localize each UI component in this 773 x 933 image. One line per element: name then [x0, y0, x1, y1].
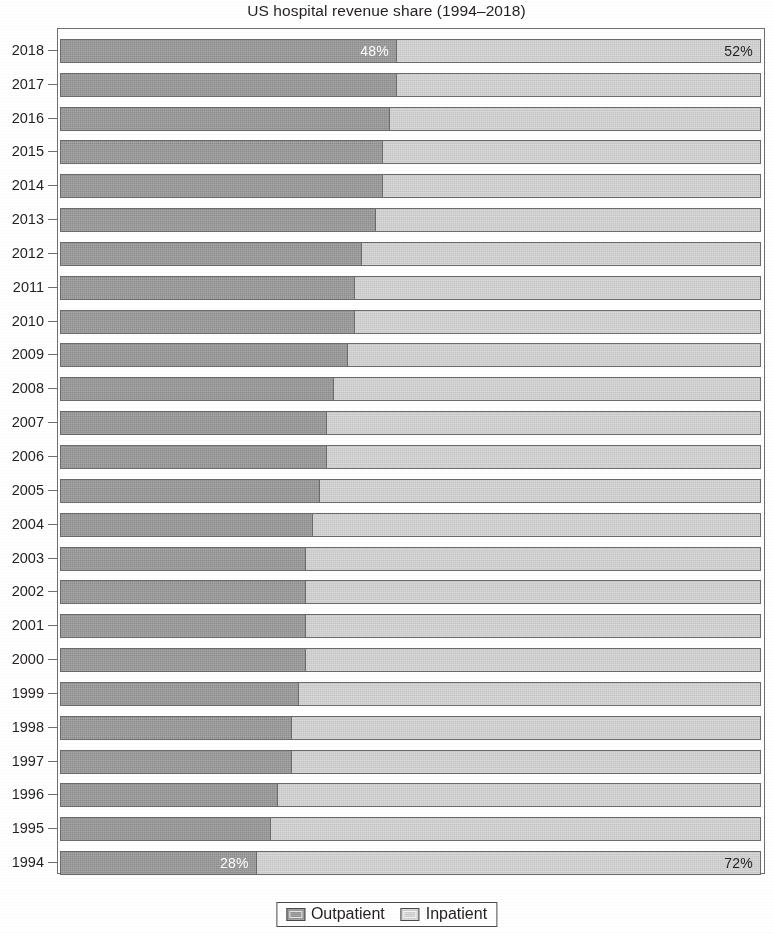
- bar-segment-outpatient: [60, 817, 271, 841]
- legend-label: Outpatient: [311, 906, 385, 922]
- bar-value-label-outpatient: 48%: [360, 44, 396, 58]
- bar-row: [60, 242, 762, 266]
- bar-row: [60, 614, 762, 638]
- y-axis-tick-label-2002: 2002: [12, 584, 44, 599]
- y-axis-tick-label-1997: 1997: [12, 753, 44, 768]
- bar-segment-inpatient: [382, 174, 761, 198]
- bar-segment-inpatient: [326, 445, 761, 469]
- bar-segment-inpatient: [347, 343, 761, 367]
- bar-row: [60, 411, 762, 435]
- bar-row: [60, 73, 762, 97]
- legend-swatch-icon-outpatient: [286, 908, 305, 921]
- y-axis-tick-mark: [48, 118, 57, 119]
- y-axis-tick-mark: [48, 794, 57, 795]
- bar-segment-inpatient: [305, 580, 761, 604]
- bar-segment-outpatient: 28%: [60, 851, 257, 875]
- bar-segment-inpatient: 72%: [256, 851, 761, 875]
- bar-segment-outpatient: [60, 682, 299, 706]
- bar-segment-inpatient: [298, 682, 761, 706]
- bar-segment-outpatient: [60, 140, 383, 164]
- bar-row: 48%52%: [60, 39, 762, 63]
- y-axis-tick-mark: [48, 625, 57, 626]
- bar-row: [60, 580, 762, 604]
- y-axis-tick-label-2011: 2011: [13, 280, 44, 295]
- y-axis-tick-label-2010: 2010: [12, 313, 44, 328]
- y-axis-tick-mark: [48, 219, 57, 220]
- y-axis-tick-label-2013: 2013: [12, 212, 44, 227]
- chart-figure: US hospital revenue share (1994–2018) 20…: [0, 0, 773, 933]
- bar-row: [60, 343, 762, 367]
- bar-segment-outpatient: [60, 783, 278, 807]
- bar-segment-inpatient: 52%: [396, 39, 761, 63]
- y-axis-tick-mark: [48, 524, 57, 525]
- bar-row: [60, 648, 762, 672]
- bar-segment-inpatient: [277, 783, 761, 807]
- bar-segment-outpatient: [60, 276, 355, 300]
- y-axis-tick-label-1998: 1998: [12, 719, 44, 734]
- bar-segment-outpatient: [60, 310, 355, 334]
- bar-row: [60, 817, 762, 841]
- legend-item-inpatient[interactable]: Inpatient: [401, 906, 487, 922]
- bar-row: [60, 682, 762, 706]
- y-axis-tick-label-2016: 2016: [12, 110, 44, 125]
- bar-row: [60, 208, 762, 232]
- bar-row: [60, 445, 762, 469]
- bar-segment-inpatient: [375, 208, 761, 232]
- bar-row: [60, 716, 762, 740]
- y-axis-tick-label-2015: 2015: [12, 144, 44, 159]
- bar-row: [60, 140, 762, 164]
- y-axis-tick-label-2003: 2003: [12, 550, 44, 565]
- bar-segment-outpatient: [60, 716, 292, 740]
- bar-segment-outpatient: [60, 73, 397, 97]
- legend-item-outpatient[interactable]: Outpatient: [286, 906, 385, 922]
- bar-value-label-outpatient: 28%: [220, 856, 256, 870]
- y-axis-tick-mark: [48, 828, 57, 829]
- bar-segment-inpatient: [396, 73, 761, 97]
- y-axis-tick-mark: [48, 862, 57, 863]
- bar-segment-outpatient: [60, 479, 320, 503]
- bar-row: [60, 377, 762, 401]
- bar-segment-inpatient: [270, 817, 761, 841]
- y-axis-tick-mark: [48, 287, 57, 288]
- bar-segment-inpatient: [291, 716, 761, 740]
- legend-label: Inpatient: [426, 906, 487, 922]
- bar-segment-outpatient: [60, 411, 327, 435]
- y-axis-tick-mark: [48, 253, 57, 254]
- bar-segment-outpatient: [60, 343, 348, 367]
- bars-layer: 48%52%28%72%: [58, 29, 764, 873]
- bar-segment-outpatient: [60, 377, 334, 401]
- bar-row: [60, 276, 762, 300]
- bar-segment-inpatient: [354, 310, 761, 334]
- y-axis-tick-label-2009: 2009: [12, 347, 44, 362]
- y-axis-tick-label-2006: 2006: [12, 449, 44, 464]
- y-axis-tick-label-2017: 2017: [12, 77, 44, 92]
- bar-segment-outpatient: [60, 580, 306, 604]
- y-axis-tick-mark: [48, 151, 57, 152]
- bar-segment-outpatient: [60, 174, 383, 198]
- bar-segment-outpatient: [60, 513, 313, 537]
- y-axis-tick-mark: [48, 558, 57, 559]
- bar-value-label-inpatient: 72%: [724, 856, 760, 870]
- y-axis-tick-label-2014: 2014: [12, 178, 44, 193]
- bar-row: [60, 107, 762, 131]
- legend-swatch-icon-inpatient: [401, 908, 420, 921]
- bar-row: [60, 750, 762, 774]
- bar-segment-inpatient: [291, 750, 761, 774]
- bar-row: 28%72%: [60, 851, 762, 875]
- chart-title: US hospital revenue share (1994–2018): [0, 2, 773, 20]
- bar-segment-outpatient: 48%: [60, 39, 397, 63]
- bar-row: [60, 479, 762, 503]
- bar-row: [60, 783, 762, 807]
- bar-segment-outpatient: [60, 614, 306, 638]
- bar-segment-inpatient: [305, 547, 761, 571]
- y-axis-tick-label-1999: 1999: [12, 686, 44, 701]
- y-axis-tick-mark: [48, 456, 57, 457]
- bar-value-label-inpatient: 52%: [724, 44, 760, 58]
- bar-segment-outpatient: [60, 107, 390, 131]
- bar-segment-inpatient: [389, 107, 761, 131]
- y-axis-tick-label-1994: 1994: [12, 855, 44, 870]
- bar-segment-outpatient: [60, 242, 362, 266]
- bar-segment-inpatient: [312, 513, 761, 537]
- bar-segment-inpatient: [361, 242, 761, 266]
- y-axis-tick-mark: [48, 84, 57, 85]
